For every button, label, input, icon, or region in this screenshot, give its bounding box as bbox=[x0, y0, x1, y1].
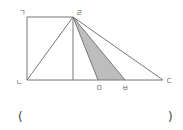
label-giyeok: ㄱ bbox=[19, 9, 25, 17]
label-mieum: ㅁ bbox=[96, 84, 102, 92]
label-nieun: ㄴ bbox=[16, 78, 22, 86]
answer-close-paren: ) bbox=[168, 110, 173, 124]
geometry-diagram: ㄱ ㄹ ㄴ ㄷ ㅁ ㅂ bbox=[0, 0, 183, 105]
label-rieul: ㄹ bbox=[76, 9, 82, 17]
segment-nieun-rieul bbox=[27, 17, 73, 80]
label-digeut: ㄷ bbox=[166, 77, 172, 85]
label-bieup: ㅂ bbox=[122, 84, 128, 92]
answer-open-paren: ( bbox=[18, 110, 23, 124]
